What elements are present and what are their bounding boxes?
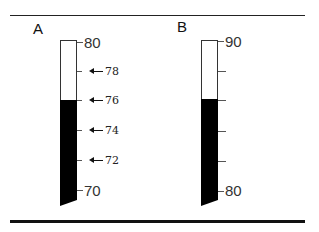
arrow-icon [93, 100, 103, 101]
label-a-min: 70 [84, 183, 101, 198]
bottom-rule [10, 220, 305, 223]
gauge-a-bottom [60, 200, 77, 206]
arrow-icon [93, 130, 103, 131]
panel-label-a: A [33, 20, 43, 37]
tick-a-80 [77, 42, 83, 43]
tick-a-72 [77, 160, 82, 161]
label-b-min: 80 [225, 183, 242, 198]
tick-b-90 [218, 41, 224, 42]
tick-b-80 [218, 191, 224, 192]
panel-label-b: B [177, 18, 187, 35]
arrow-icon [93, 71, 103, 72]
gauge-b-bottom [201, 200, 218, 206]
tick-b-84 [218, 131, 226, 132]
gauge-a-fill [60, 100, 77, 200]
tick-a-74 [77, 130, 82, 131]
gauge-b-fill [201, 99, 218, 200]
tick-a-76 [77, 100, 82, 101]
tick-b-82 [218, 161, 226, 162]
gauge-b-empty [201, 40, 218, 100]
label-a-76: 76 [105, 95, 119, 106]
gauge-a [60, 40, 77, 200]
label-a-max: 80 [84, 35, 101, 50]
label-a-74: 74 [105, 125, 119, 136]
label-a-72: 72 [105, 155, 119, 166]
arrow-icon [93, 160, 103, 161]
top-rule [10, 15, 305, 16]
label-b-max: 90 [225, 34, 242, 49]
tick-a-70 [77, 190, 83, 191]
tick-b-86 [218, 100, 226, 101]
gauge-b [201, 40, 218, 200]
tick-a-78 [77, 71, 82, 72]
tick-b-88 [218, 71, 226, 72]
gauge-a-empty [60, 40, 77, 101]
label-a-78: 78 [105, 66, 119, 77]
